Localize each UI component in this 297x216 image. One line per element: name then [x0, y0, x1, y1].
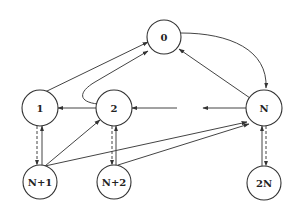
- svg-text:N: N: [259, 103, 268, 114]
- svg-text:1: 1: [37, 103, 44, 114]
- state-diagram: 0 1 2 N N+1 N+2 2N: [0, 0, 297, 216]
- edge-1-to-0: [45, 42, 148, 92]
- svg-text:0: 0: [161, 32, 168, 43]
- node-2: 2: [96, 90, 132, 126]
- edge-Nplus2-to-N: [118, 124, 249, 165]
- svg-text:N+1: N+1: [28, 177, 52, 188]
- edge-Nplus1-to-N: [45, 122, 247, 166]
- node-N: N: [246, 90, 282, 126]
- svg-text:2: 2: [111, 103, 118, 114]
- svg-text:2N: 2N: [256, 178, 272, 189]
- edge-Nplus1-to-2: [45, 120, 100, 166]
- node-1: 1: [22, 90, 58, 126]
- svg-text:N+2: N+2: [102, 177, 127, 188]
- edge-N-to-0: [179, 49, 250, 98]
- node-2N: 2N: [247, 166, 281, 200]
- node-0: 0: [147, 20, 181, 54]
- node-N-plus-2: N+2: [97, 165, 131, 199]
- node-N-plus-1: N+1: [23, 165, 57, 199]
